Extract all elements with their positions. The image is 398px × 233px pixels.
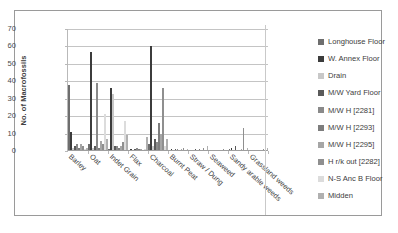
y-tick-label: 50 xyxy=(0,60,16,68)
legend-item-label: Longhouse Floor xyxy=(328,38,385,46)
legend-item-label: M/W H [2295] xyxy=(328,141,374,149)
legend-item[interactable]: Longhouse Floor xyxy=(318,33,383,50)
x-axis-labels: BarleyOatIndet GrainFlaxCharcoalBurnt Pe… xyxy=(67,152,282,222)
legend-swatch-icon xyxy=(318,39,324,45)
legend-item[interactable]: W. Annex Floor xyxy=(318,50,383,67)
bar-group xyxy=(88,29,108,151)
y-tick-label: 0 xyxy=(0,147,16,155)
legend-item-label: Drain xyxy=(328,72,346,80)
legend-swatch-icon xyxy=(318,142,324,148)
bar xyxy=(150,46,152,151)
y-axis-title-label: No. of Macrofossils xyxy=(19,55,28,125)
bar-group xyxy=(128,29,148,151)
bar-group xyxy=(108,29,128,151)
bar xyxy=(90,52,92,151)
bar-group xyxy=(229,29,249,151)
bar xyxy=(96,83,98,151)
y-tick-label: 10 xyxy=(0,130,16,138)
y-tick-label: 20 xyxy=(0,112,16,120)
chart-legend: Longhouse FloorW. Annex FloorDrainM/W Ya… xyxy=(265,25,383,215)
y-tick-label: 30 xyxy=(0,95,16,103)
bar xyxy=(112,94,114,152)
bar-group xyxy=(68,29,88,151)
y-tick-label: 70 xyxy=(0,25,16,33)
bar xyxy=(243,128,245,151)
legend-item[interactable]: Midden xyxy=(318,188,383,205)
legend-item[interactable]: M/W H [2293] xyxy=(318,119,383,136)
legend-item[interactable]: M/W H [2281] xyxy=(318,102,383,119)
legend-item-label: W. Annex Floor xyxy=(328,55,380,63)
bar xyxy=(162,88,164,151)
x-axis-label: Oat xyxy=(88,152,103,167)
bar-group xyxy=(189,29,209,151)
x-axis-line xyxy=(68,150,268,151)
legend-item[interactable]: N-S Anc B Floor xyxy=(318,171,383,188)
bar-group xyxy=(148,29,168,151)
plot-area: 010203040506070 xyxy=(67,29,268,151)
legend-item[interactable]: M/W Yard Floor xyxy=(318,85,383,102)
chart-container: No. of Macrofossils 010203040506070 Barl… xyxy=(14,10,382,216)
legend-item-label: H r/k out [2282] xyxy=(328,158,380,166)
legend-item[interactable]: Drain xyxy=(318,67,383,84)
legend-item-label: M/W H [2281] xyxy=(328,107,374,115)
y-tick-label: 60 xyxy=(0,42,16,50)
bar-group xyxy=(169,29,189,151)
legend-item-label: M/W Yard Floor xyxy=(328,89,380,97)
legend-swatch-icon xyxy=(318,107,324,113)
legend-item-label: Midden xyxy=(328,192,353,200)
legend-item-label: M/W H [2293] xyxy=(328,124,374,132)
legend-item-label: N-S Anc B Floor xyxy=(328,175,382,183)
y-axis-title: No. of Macrofossils xyxy=(16,35,30,145)
legend-swatch-icon xyxy=(318,193,324,199)
legend-swatch-icon xyxy=(318,56,324,62)
legend-item[interactable]: M/W H [2295] xyxy=(318,136,383,153)
legend-item[interactable]: H r/k out [2282] xyxy=(318,153,383,170)
x-axis-label: Barley xyxy=(67,152,88,173)
legend-swatch-icon xyxy=(318,159,324,165)
bar-group xyxy=(209,29,229,151)
y-tick-label: 40 xyxy=(0,77,16,85)
legend-swatch-icon xyxy=(318,73,324,79)
legend-swatch-icon xyxy=(318,125,324,131)
legend-swatch-icon xyxy=(318,90,324,96)
legend-swatch-icon xyxy=(318,176,324,182)
